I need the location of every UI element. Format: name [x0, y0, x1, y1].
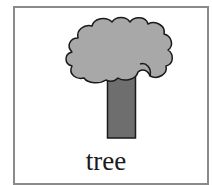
- tree-trunk: [108, 76, 136, 138]
- tree-canopy: [66, 18, 172, 83]
- card-label: tree: [0, 147, 212, 175]
